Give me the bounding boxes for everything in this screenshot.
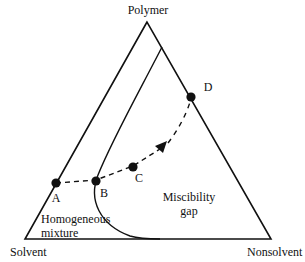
- composition-path-upper: [168, 102, 190, 143]
- ternary-triangle: [25, 22, 271, 239]
- region-homogeneous-line1: Homogeneous: [41, 212, 111, 226]
- point-b-marker: [91, 176, 100, 185]
- region-homogeneous-line2: mixture: [41, 226, 78, 240]
- point-a-label: A: [52, 191, 61, 205]
- region-miscibility-line2: gap: [180, 204, 197, 218]
- binodal-curve: [95, 47, 162, 239]
- point-c-label: C: [135, 171, 143, 185]
- vertex-nonsolvent-label: Nonsolvent: [247, 245, 303, 259]
- point-b-label: B: [100, 186, 108, 200]
- region-miscibility-line1: Miscibility: [163, 190, 216, 204]
- arrow-head-icon: [155, 141, 167, 153]
- point-d-marker: [186, 92, 195, 101]
- ternary-diagram: A B C D Polymer Solvent Nonsolvent Homog…: [0, 0, 305, 262]
- point-a-marker: [51, 178, 60, 187]
- point-d-label: D: [204, 80, 213, 94]
- vertex-solvent-label: Solvent: [10, 245, 47, 259]
- vertex-polymer-label: Polymer: [128, 3, 169, 17]
